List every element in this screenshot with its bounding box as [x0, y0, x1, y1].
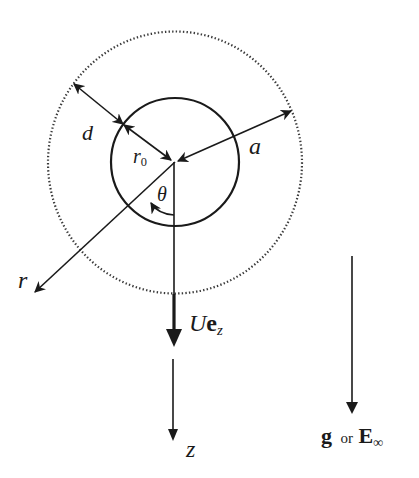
z-axis-arrowhead — [168, 429, 178, 441]
label-velocity: Uez — [189, 311, 223, 338]
field-arrowhead — [346, 402, 358, 414]
label-field-g: g — [321, 423, 332, 448]
r-axis-arrow — [35, 162, 175, 292]
label-r0-subscript: 0 — [141, 155, 147, 169]
label-field-subscript: ∞ — [373, 435, 383, 450]
label-field-or: or — [341, 430, 354, 446]
r0-radius-arrow — [124, 125, 171, 160]
diagram-graphics — [0, 0, 419, 478]
velocity-arrowhead — [166, 329, 182, 347]
label-velocity-e: e — [206, 310, 217, 336]
diagram-canvas: d r0 a θ r Uez z g or E∞ — [0, 0, 419, 478]
label-theta: θ — [157, 184, 167, 204]
label-velocity-U: U — [189, 310, 206, 336]
label-z: z — [186, 437, 195, 461]
label-r0: r0 — [133, 146, 147, 169]
label-r0-main: r — [133, 145, 141, 167]
label-velocity-subscript: z — [217, 322, 223, 338]
d-dimension-arrow — [74, 84, 123, 124]
label-d: d — [82, 122, 93, 144]
label-r: r — [18, 268, 27, 292]
label-field: g or E∞ — [321, 425, 383, 449]
label-field-E: E — [359, 423, 374, 448]
label-a: a — [249, 134, 261, 158]
a-radius-arrow — [178, 111, 291, 161]
